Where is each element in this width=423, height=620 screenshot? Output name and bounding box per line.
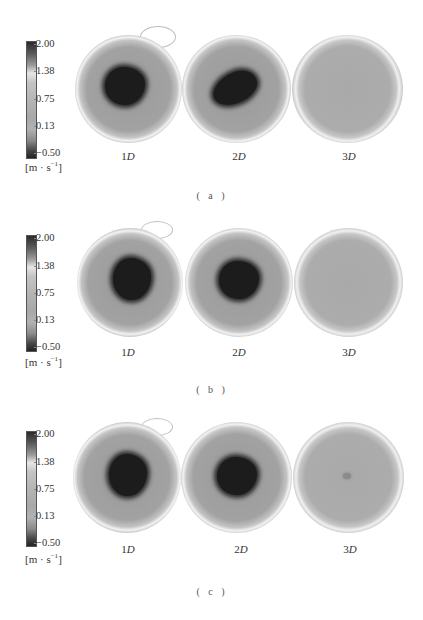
low-velocity-core bbox=[217, 457, 257, 495]
colorbar-tick: 0.13 bbox=[36, 315, 54, 325]
colorbar-tick: 0.75 bbox=[36, 484, 54, 494]
disc-label-1d: 1D bbox=[108, 346, 148, 358]
disc-label-3d: 3D bbox=[330, 543, 370, 555]
panel-caption: ( b ) bbox=[182, 384, 242, 395]
contour-disc-3d bbox=[294, 228, 403, 337]
colorbar-tick: −0.50 bbox=[36, 538, 60, 548]
colorbar-unit: [m · s−1] bbox=[25, 552, 62, 565]
disc-label-2d: 2D bbox=[221, 543, 261, 555]
contour-disc-2d bbox=[181, 422, 292, 533]
contour-disc-2d bbox=[185, 228, 293, 337]
contour-disc-1d bbox=[73, 422, 181, 533]
panel-c: 2.00 1.38 0.75 0.13 −0.50 [m · s−1] 1D 2… bbox=[0, 0, 423, 195]
colorbar-tick: 0.13 bbox=[36, 511, 54, 521]
contour-disc-1d bbox=[77, 228, 183, 337]
colorbar-tick: 2.00 bbox=[36, 233, 54, 243]
disc-label-2d: 2D bbox=[219, 346, 259, 358]
colorbar-tick: 1.38 bbox=[36, 457, 54, 467]
colorbar-unit: [m · s−1] bbox=[25, 355, 62, 368]
colorbar-tick: 1.38 bbox=[36, 261, 54, 271]
low-velocity-core bbox=[219, 261, 259, 299]
panel-caption: ( c ) bbox=[182, 586, 242, 597]
low-velocity-speck bbox=[343, 473, 351, 479]
disc-label-1d: 1D bbox=[108, 543, 148, 555]
low-velocity-core bbox=[113, 258, 151, 300]
colorbar-tick: −0.50 bbox=[36, 342, 60, 352]
colorbar-tick: 2.00 bbox=[36, 429, 54, 439]
colorbar-tick: 0.75 bbox=[36, 288, 54, 298]
contour-disc-3d bbox=[293, 422, 404, 533]
low-velocity-core bbox=[109, 454, 147, 496]
disc-label-3d: 3D bbox=[329, 346, 369, 358]
